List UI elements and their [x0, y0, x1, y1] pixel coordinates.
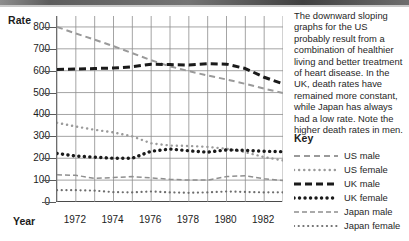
legend-item[interactable]: UK female [294, 191, 407, 205]
sidebar: The downward sloping graphs for the US p… [294, 10, 407, 238]
commentary-text: The downward sloping graphs for the US p… [294, 10, 406, 135]
legend-label: US male [344, 151, 380, 161]
x-axis-tick-label: 1972 [55, 215, 95, 225]
legend-item[interactable]: Japan male [294, 205, 407, 219]
legend-swatch-uk-female [294, 192, 338, 204]
x-axis-tick-label: 1980 [206, 215, 246, 225]
line-chart: Rate 0100200300400500600700800 Year 1972… [0, 7, 288, 241]
y-axis-tick-mark [42, 93, 56, 94]
legend: Key US maleUS femaleUK maleUK femaleJapa… [294, 132, 407, 233]
y-axis-tick-mark [42, 49, 56, 50]
y-axis-tick-mark [42, 180, 56, 181]
legend-swatch-uk-male [294, 178, 338, 190]
legend-item[interactable]: Japan female [294, 219, 407, 233]
x-axis-title: Year [13, 215, 35, 227]
x-axis-tick-label: 1976 [130, 215, 170, 225]
legend-label: UK female [344, 193, 388, 203]
x-axis-tick-label: 1978 [168, 215, 208, 225]
legend-label: Japan male [344, 207, 392, 217]
legend-swatch-japan-male [294, 206, 338, 218]
legend-swatch-us-female [294, 164, 338, 176]
legend-label: UK male [344, 179, 380, 189]
x-axis-tick-label: 1982 [243, 215, 283, 225]
x-axis-tick-label: 1974 [93, 215, 133, 225]
legend-title: Key [294, 132, 407, 144]
y-axis-tick-mark [42, 27, 56, 28]
y-axis-tick-mark [42, 114, 56, 115]
legend-item[interactable]: US male [294, 149, 407, 163]
plot-area [56, 16, 282, 202]
legend-rows: US maleUS femaleUK maleUK femaleJapan ma… [294, 149, 407, 233]
y-axis-tick-mark [42, 136, 56, 137]
plot-svg [57, 16, 283, 202]
legend-label: Japan female [344, 221, 400, 231]
legend-swatch-us-male [294, 150, 338, 162]
legend-swatch-japan-female [294, 220, 338, 232]
legend-item[interactable]: UK male [294, 177, 407, 191]
y-axis-tick-group: 0100200300400500600700800 [0, 7, 50, 241]
legend-label: US female [344, 165, 388, 175]
legend-item[interactable]: US female [294, 163, 407, 177]
y-axis-tick-mark [42, 71, 56, 72]
y-axis-tick-mark [42, 158, 56, 159]
y-axis-tick-mark [42, 202, 56, 203]
